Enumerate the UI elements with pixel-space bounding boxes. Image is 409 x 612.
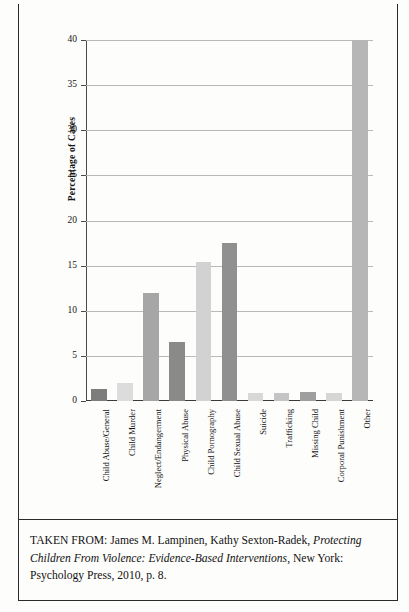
y-axis-title: Percentage of Cases [67,99,77,219]
caption-prefix: TAKEN FROM: James M. Lampinen, Kathy Sex… [30,534,313,547]
y-tick-label: 10 [68,306,78,316]
y-tick-mark [81,221,86,222]
bar [274,393,290,401]
bar [91,389,107,401]
bar [352,40,368,401]
bar [169,342,185,401]
x-tick-label: Child Sexual Abuse [233,409,242,477]
gridline [86,130,373,131]
y-tick-mark [81,175,86,176]
bar [117,383,133,401]
bar [196,262,212,401]
y-tick-label: 20 [68,216,78,226]
source-caption: TAKEN FROM: James M. Lampinen, Kathy Sex… [30,532,388,585]
y-tick-label: 35 [68,80,78,90]
y-tick-label: 25 [68,171,78,181]
caption-divider [18,519,398,520]
bar [300,392,316,401]
bar [248,393,264,401]
bar [326,393,342,401]
y-tick-mark [81,356,86,357]
x-tick-label: Neglect/Endangerment [154,409,163,488]
y-tick-mark [81,266,86,267]
x-tick-label: Child Pornography [207,409,216,475]
y-tick-mark [81,311,86,312]
gridline [86,175,373,176]
gridline [86,40,373,41]
x-tick-label: Suicide [259,409,268,435]
y-tick-mark [81,401,86,402]
y-tick-mark [81,85,86,86]
bar [222,243,238,401]
gridline [86,85,373,86]
figure-page: Percentage of Cases 0510152025303540 Chi… [0,0,409,612]
bar [143,293,159,401]
plot-area: 0510152025303540 Child Abuse/GeneralChil… [86,40,373,401]
x-tick-label: Missing Child [311,409,320,458]
y-tick-label: 15 [68,261,78,271]
y-tick-label: 40 [68,35,78,45]
x-tick-label: Corporal Punishment [337,409,346,482]
y-tick-label: 30 [68,126,78,136]
gridline [86,221,373,222]
y-tick-mark [81,40,86,41]
x-tick-label: Physical Abuse [181,409,190,462]
x-tick-label: Child Abuse/General [102,409,111,481]
y-tick-mark [81,130,86,131]
x-tick-label: Trafficking [285,409,294,448]
y-tick-label: 0 [72,396,77,406]
bar-chart: Percentage of Cases 0510152025303540 Chi… [18,4,398,516]
x-tick-label: Other [363,409,372,429]
x-tick-label: Child Murder [128,409,137,456]
y-tick-label: 5 [72,351,77,361]
